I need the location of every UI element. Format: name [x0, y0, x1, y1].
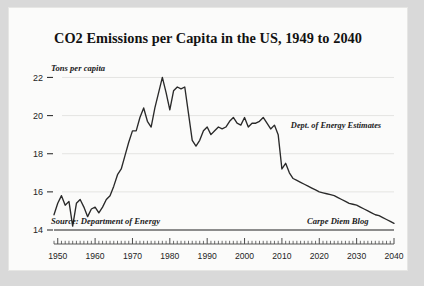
y-axis-tick-label: 14: [33, 225, 43, 235]
x-axis-tick-label: 1970: [123, 251, 142, 261]
x-axis-tick-label: 2040: [384, 251, 403, 261]
x-axis-tick-label: 2020: [310, 251, 329, 261]
x-axis-tick-label: 2030: [347, 251, 366, 261]
x-axis-ticks: 1950196019701980199020002010202020302040: [48, 251, 404, 261]
chart-card: CO2 Emissions per Capita in the US, 1949…: [9, 8, 407, 270]
x-axis-tick-label: 1950: [48, 251, 67, 261]
line-chart-svg: 1416182022 19501960197019801990200020102…: [9, 8, 407, 270]
plot-area: 1416182022 19501960197019801990200020102…: [9, 8, 407, 270]
x-axis-tick-label: 2010: [272, 251, 291, 261]
source-annotation: Source: Department of Energy: [51, 216, 160, 226]
data-series-line: [54, 77, 394, 226]
x-axis-line: [54, 230, 394, 244]
x-axis-tick-label: 1990: [198, 251, 217, 261]
y-axis-tick-label: 20: [33, 111, 43, 121]
y-axis-ticks: 1416182022: [33, 73, 53, 236]
blog-credit-annotation: Carpe Diem Blog: [307, 216, 369, 226]
x-axis-tick-label: 1960: [86, 251, 105, 261]
x-axis-minor-ticks: [54, 238, 394, 244]
x-axis-tick-label: 1980: [160, 251, 179, 261]
chart-screenshot: CO2 Emissions per Capita in the US, 1949…: [0, 0, 424, 286]
gridlines: [62, 77, 394, 191]
x-axis-tick-label: 2000: [235, 251, 254, 261]
y-axis-tick-label: 16: [33, 187, 43, 197]
y-axis-unit-label: Tons per capita: [51, 63, 105, 73]
y-axis-tick-label: 22: [33, 73, 43, 83]
estimates-annotation: Dept. of Energy Estimates: [281, 121, 391, 131]
y-axis-tick-label: 18: [33, 149, 43, 159]
series-line-co2-per-capita: [54, 77, 394, 226]
